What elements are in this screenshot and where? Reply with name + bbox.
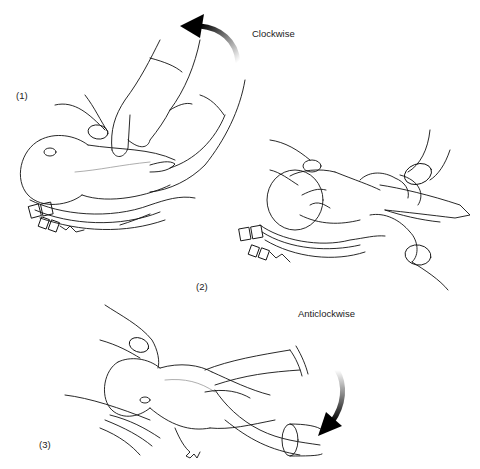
panel-1-drawing: [20, 14, 245, 232]
panel-3-drawing: [65, 305, 343, 458]
clockwise-arrow-icon: [180, 14, 238, 62]
illustration: [0, 0, 480, 469]
panel-2-drawing: [239, 130, 470, 290]
anticlockwise-arrow-icon: [318, 370, 343, 436]
